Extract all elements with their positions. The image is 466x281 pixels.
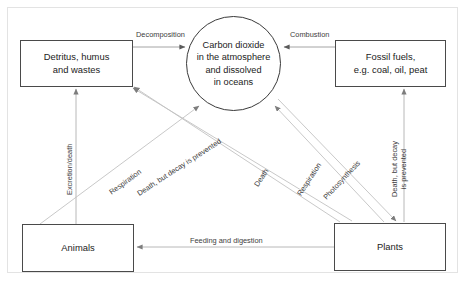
edge-label-decomposition: Decomposition xyxy=(136,31,185,40)
edge-respiration-plants xyxy=(275,106,384,222)
edge-label-excretion-death: Excretion/death xyxy=(66,144,75,195)
node-carbon-dioxide[interactable]: Carbon dioxide in the atmosphere and dis… xyxy=(186,16,281,111)
edge-label-combustion: Combustion xyxy=(290,31,329,40)
node-plants[interactable]: Plants xyxy=(334,223,446,271)
node-carbon-dioxide-label: Carbon dioxide in the atmosphere and dis… xyxy=(197,39,271,88)
node-fossil-fuels-label: Fossil fuels, e.g. coal, oil, peat xyxy=(354,51,428,76)
node-detritus-label: Detritus, humus and wastes xyxy=(44,51,110,76)
node-plants-label: Plants xyxy=(377,241,403,253)
node-animals-label: Animals xyxy=(61,242,94,254)
node-fossil-fuels[interactable]: Fossil fuels, e.g. coal, oil, peat xyxy=(335,40,446,87)
edge-label-feeding-digestion: Feeding and digestion xyxy=(190,237,263,246)
edge-photosynthesis xyxy=(278,99,396,221)
node-detritus[interactable]: Detritus, humus and wastes xyxy=(20,40,133,87)
diagram-canvas: Detritus, humus and wastes Carbon dioxid… xyxy=(0,0,466,281)
edge-label-death-decay-right: Death, but decay is prevented xyxy=(391,141,409,197)
node-animals[interactable]: Animals xyxy=(22,224,134,272)
